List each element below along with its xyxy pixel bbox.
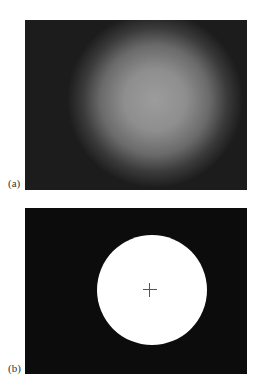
panel-b-label: (b) xyxy=(8,362,21,374)
panel-b-thresholded-image xyxy=(25,208,247,374)
panel-a-label: (a) xyxy=(8,177,20,189)
crosshair-icon-vertical xyxy=(149,283,150,297)
crosshair-icon xyxy=(143,289,157,290)
white-disc xyxy=(97,235,207,345)
panel-a-blurred-image xyxy=(25,20,247,190)
